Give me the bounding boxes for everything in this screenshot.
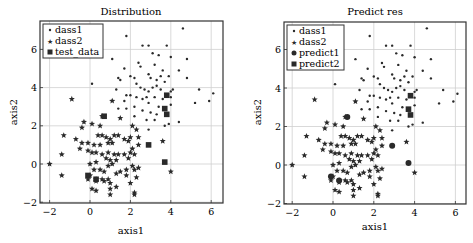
axis-ticks: −20246−20246 <box>23 44 214 217</box>
legend-label-dass2: dass2 <box>299 36 327 47</box>
y-tick-label: 0 <box>275 160 281 171</box>
legend-label-predict2: predict2 <box>299 58 340 69</box>
x-axis-label: axis1 <box>362 221 388 232</box>
y-tick-label: 2 <box>31 120 37 131</box>
legend: dass1 ★ dass2 test_data <box>43 24 103 58</box>
square-marker-icon <box>292 62 297 67</box>
x-axis-label: axis1 <box>118 225 144 236</box>
predict-res-chart-panel: Predict res −20246−20246 axis1 axis2 das… <box>236 0 472 243</box>
y-tick-label: 2 <box>275 121 281 132</box>
chart-title: Predict res <box>347 6 403 17</box>
y-tick-label: 6 <box>31 44 37 55</box>
legend-label-dass1: dass1 <box>299 25 327 36</box>
x-tick-label: 6 <box>208 206 214 217</box>
legend-label-test-data: test_data <box>55 46 99 58</box>
star-marker-icon: ★ <box>47 38 53 46</box>
star-marker-icon: ★ <box>291 39 297 47</box>
x-tick-label: 4 <box>412 207 418 218</box>
circle-marker-icon <box>292 51 297 56</box>
y-tick-label: −2 <box>23 197 37 208</box>
legend-label-dass2: dass2 <box>55 35 83 46</box>
y-tick-label: 4 <box>275 83 281 94</box>
x-tick-label: −2 <box>285 207 299 218</box>
x-tick-label: −2 <box>43 206 57 217</box>
chart-title: Distribution <box>101 6 162 17</box>
y-tick-label: 6 <box>275 44 281 55</box>
distribution-scatter-plot: Distribution −20246−20246 axis1 axis2 da… <box>0 0 236 243</box>
x-tick-label: 0 <box>330 207 336 218</box>
y-tick-label: −2 <box>267 198 281 209</box>
legend-label-predict1: predict1 <box>299 47 340 58</box>
legend-label-dass1: dass1 <box>55 24 83 35</box>
x-tick-label: 6 <box>452 207 458 218</box>
legend: dass1 ★ dass2 predict1 predict2 <box>287 25 344 70</box>
y-axis-label: axis2 <box>252 99 263 125</box>
square-marker-icon <box>48 50 53 55</box>
y-axis-label: axis2 <box>8 99 19 125</box>
x-tick-label: 2 <box>127 206 133 217</box>
distribution-chart-panel: Distribution −20246−20246 axis1 axis2 da… <box>0 0 236 243</box>
dot-marker-icon <box>293 30 295 32</box>
y-tick-label: 0 <box>31 159 37 170</box>
y-tick-label: 4 <box>31 82 37 93</box>
x-tick-label: 2 <box>371 207 377 218</box>
x-tick-label: 4 <box>168 206 174 217</box>
predict-res-scatter-plot: Predict res −20246−20246 axis1 axis2 das… <box>236 0 473 243</box>
x-tick-label: 0 <box>87 206 93 217</box>
dot-marker-icon <box>49 29 51 31</box>
